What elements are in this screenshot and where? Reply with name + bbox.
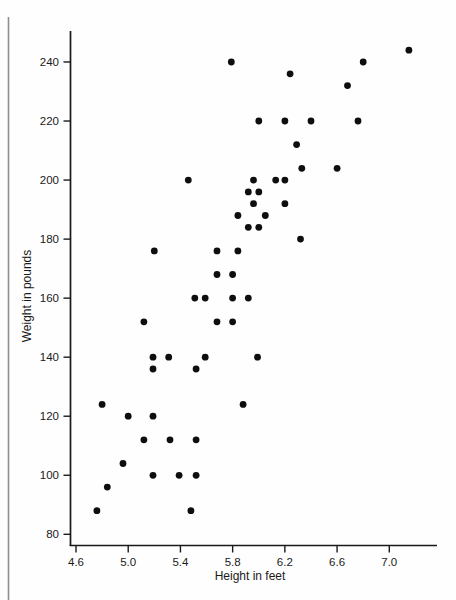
data-point (282, 200, 289, 207)
y-tick-label: 120 (40, 410, 59, 422)
x-tick-label: 6.2 (277, 556, 293, 568)
data-point (406, 47, 413, 54)
data-point (229, 295, 236, 302)
data-point (193, 472, 200, 479)
y-axis-title: Weight in pounds (20, 250, 34, 343)
data-point (355, 118, 362, 125)
data-point (262, 212, 269, 219)
y-tick-label: 180 (40, 233, 59, 245)
data-point (293, 141, 300, 148)
data-point (360, 59, 367, 66)
data-point (228, 59, 235, 66)
y-tick-label: 200 (40, 174, 59, 186)
data-point (245, 189, 252, 196)
data-point (167, 436, 174, 443)
x-tick-label: 4.6 (68, 556, 84, 568)
data-point (245, 295, 252, 302)
data-point (193, 436, 200, 443)
data-point (255, 224, 262, 231)
y-ticks-group: 80100120140160180200220240 (40, 56, 71, 540)
data-point (282, 118, 289, 125)
data-point (229, 271, 236, 278)
data-point (298, 165, 305, 172)
data-point (185, 177, 192, 184)
data-point (240, 401, 247, 408)
data-point (272, 177, 279, 184)
y-tick-label: 80 (46, 528, 59, 540)
data-point (141, 318, 148, 325)
y-tick-label: 100 (40, 469, 59, 481)
data-point (287, 70, 294, 77)
scatter-plot-page: 80100120140160180200220240 4.65.05.45.86… (0, 0, 456, 600)
data-point (214, 248, 221, 255)
data-point (150, 366, 157, 373)
data-point (245, 224, 252, 231)
data-point (255, 189, 262, 196)
data-point (188, 507, 195, 514)
data-point (214, 318, 221, 325)
data-point (120, 460, 127, 467)
data-points-group (94, 47, 413, 514)
x-axis-title: Height in feet (215, 569, 286, 583)
y-tick-label: 240 (40, 56, 59, 68)
data-point (214, 271, 221, 278)
x-tick-label: 5.8 (225, 556, 241, 568)
data-point (151, 248, 158, 255)
data-point (176, 472, 183, 479)
data-point (150, 354, 157, 361)
x-tick-label: 5.0 (120, 556, 136, 568)
data-point (282, 177, 289, 184)
data-point (255, 118, 262, 125)
x-tick-label: 5.4 (172, 556, 189, 568)
data-point (235, 248, 242, 255)
data-point (229, 318, 236, 325)
data-point (334, 165, 341, 172)
data-point (250, 200, 257, 207)
data-point (297, 236, 304, 243)
data-point (344, 82, 351, 89)
data-point (150, 413, 157, 420)
data-point (250, 177, 257, 184)
data-point (150, 472, 157, 479)
x-tick-label: 6.6 (329, 556, 345, 568)
data-point (94, 507, 101, 514)
y-tick-label: 160 (40, 292, 59, 304)
data-point (141, 436, 148, 443)
data-point (202, 295, 209, 302)
x-tick-label: 7.0 (381, 556, 397, 568)
data-point (125, 413, 132, 420)
y-tick-label: 220 (40, 115, 59, 127)
data-point (254, 354, 261, 361)
data-point (191, 295, 198, 302)
data-point (193, 366, 200, 373)
scatter-plot-svg: 80100120140160180200220240 4.65.05.45.86… (0, 0, 456, 600)
y-tick-label: 140 (40, 351, 59, 363)
x-ticks-group: 4.65.05.45.86.26.67.0 (68, 546, 397, 569)
data-point (308, 118, 315, 125)
data-point (104, 484, 111, 491)
data-point (99, 401, 106, 408)
data-point (202, 354, 209, 361)
data-point (235, 212, 242, 219)
data-point (165, 354, 172, 361)
